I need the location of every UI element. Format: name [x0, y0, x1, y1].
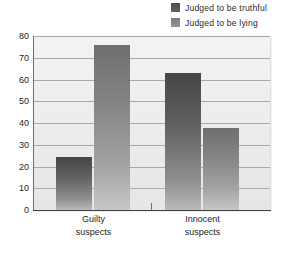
- x-axis-mid-tick: [151, 203, 152, 210]
- legend-swatch-truthful-icon: [171, 3, 180, 12]
- chart-legend: Judged to be truthful Judged to be lying: [171, 0, 288, 29]
- bar-lying-1: [203, 128, 239, 210]
- y-tick-label-30: 30: [1, 141, 29, 150]
- plot-area: [33, 36, 270, 210]
- gridline-40: [33, 123, 270, 124]
- x-label-line1: Innocent: [157, 213, 247, 226]
- legend-item-truthful: Judged to be truthful: [171, 1, 288, 14]
- x-axis-labels: GuiltysuspectsInnocentsuspects: [33, 213, 271, 249]
- y-tick-label-70: 70: [1, 54, 29, 63]
- y-tick-label-10: 10: [1, 184, 29, 193]
- y-tick-label-20: 20: [1, 163, 29, 172]
- legend-label-lying: Judged to be lying: [185, 18, 258, 28]
- legend-item-lying: Judged to be lying: [171, 16, 288, 29]
- gridline-80: [33, 36, 270, 37]
- y-axis-ticks: 80706050403020100: [0, 36, 29, 211]
- y-tick-label-40: 40: [1, 119, 29, 128]
- x-axis-line: [33, 210, 271, 211]
- legend-swatch-lying-icon: [171, 18, 180, 27]
- x-axis-group-label-1: Innocentsuspects: [157, 213, 247, 239]
- gridline-60: [33, 80, 270, 81]
- x-axis-group-label-0: Guiltysuspects: [48, 213, 138, 239]
- y-tick-label-80: 80: [1, 32, 29, 41]
- bar-lying-0: [94, 45, 130, 210]
- y-axis-line: [33, 36, 34, 211]
- bar-truthful-1: [165, 73, 201, 210]
- bar-chart: Judged to be truthful Judged to be lying…: [0, 0, 288, 253]
- y-tick-label-50: 50: [1, 97, 29, 106]
- x-label-line2: suspects: [157, 226, 247, 239]
- x-label-line1: Guilty: [48, 213, 138, 226]
- bar-truthful-0: [56, 157, 92, 210]
- legend-label-truthful: Judged to be truthful: [185, 3, 267, 13]
- y-tick-label-0: 0: [1, 206, 29, 215]
- gridline-70: [33, 58, 270, 59]
- y-tick-label-60: 60: [1, 76, 29, 85]
- x-label-line2: suspects: [48, 226, 138, 239]
- gridline-50: [33, 101, 270, 102]
